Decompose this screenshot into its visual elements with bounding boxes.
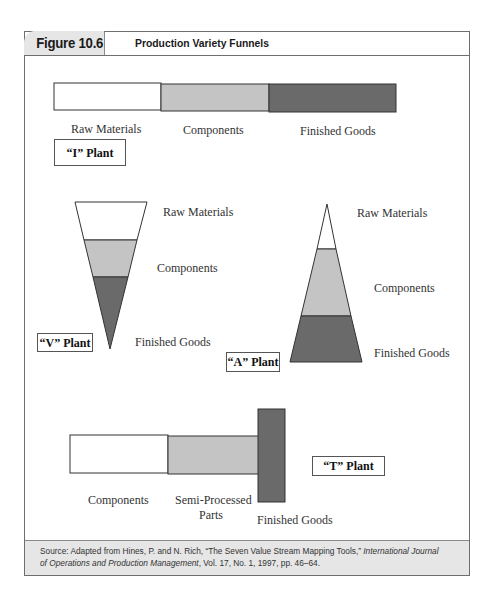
v-plant-funnel <box>75 202 147 349</box>
v-plant-badge: “V” Plant <box>37 333 93 352</box>
a-plant-components-label: Components <box>374 281 435 296</box>
t-plant-shape <box>70 409 285 502</box>
i-plant-finished-label: Finished Goods <box>300 124 376 139</box>
i-plant-bar <box>54 83 396 112</box>
t-plant-parts-label: Parts <box>199 508 223 523</box>
a-plant-funnel <box>290 204 362 362</box>
i-plant-raw-label: Raw Materials <box>71 122 141 137</box>
t-plant-semi-label: Semi-Processed <box>175 493 252 508</box>
t-plant-finished-label: Finished Goods <box>257 513 333 528</box>
v-plant-raw-label: Raw Materials <box>163 205 233 220</box>
i-plant-components-label: Components <box>183 123 244 138</box>
diagram-shapes <box>0 0 494 611</box>
i-plant-badge: “I” Plant <box>54 139 126 166</box>
t-plant-badge: “T” Plant <box>312 456 385 476</box>
a-plant-raw-label: Raw Materials <box>357 206 427 221</box>
a-plant-finished-label: Finished Goods <box>374 346 450 361</box>
v-plant-finished-label: Finished Goods <box>135 335 211 350</box>
t-plant-components-label: Components <box>88 493 149 508</box>
v-plant-components-label: Components <box>157 261 218 276</box>
a-plant-badge: “A” Plant <box>226 352 280 372</box>
